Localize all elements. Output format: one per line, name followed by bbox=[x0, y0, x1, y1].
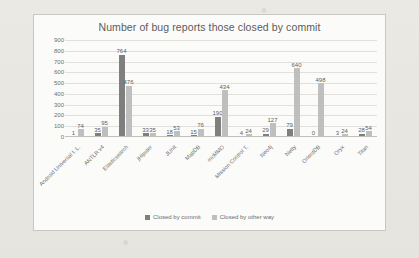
legend-entry[interactable]: Closed by other way bbox=[212, 214, 274, 220]
bar-value-label: 24 bbox=[245, 128, 252, 135]
bar-group: 424 bbox=[233, 40, 257, 137]
bar-value-label: 15 bbox=[190, 129, 197, 136]
x-axis-category-labels: Android Universal I. L.ANTLR v4Elasticse… bbox=[65, 139, 377, 197]
chart-legend: Closed by commitClosed by other way bbox=[34, 214, 385, 220]
bar-group: 0498 bbox=[305, 40, 329, 137]
bar-group: 190434 bbox=[209, 40, 233, 137]
bar-group: 324 bbox=[329, 40, 353, 137]
x-label-cell: Titan bbox=[353, 139, 377, 197]
bar[interactable]: 434 bbox=[222, 90, 228, 137]
bar-value-label: 54 bbox=[365, 125, 372, 132]
x-label-cell: Elasticsearch bbox=[113, 139, 137, 197]
y-axis-tick-100: 100 bbox=[54, 123, 64, 129]
y-axis-tick-700: 700 bbox=[54, 59, 64, 65]
bar-group: 2854 bbox=[353, 40, 377, 137]
bar[interactable]: 190 bbox=[215, 117, 221, 137]
y-axis-tick-600: 600 bbox=[54, 69, 64, 75]
legend-swatch-icon bbox=[145, 215, 150, 220]
bar[interactable]: 498 bbox=[318, 83, 324, 137]
bar-group: 1853 bbox=[161, 40, 185, 137]
bar[interactable]: 764 bbox=[119, 55, 125, 137]
x-label-cell: MapDB bbox=[185, 139, 209, 197]
x-label-cell: jHipster bbox=[137, 139, 161, 197]
bar-group: 79640 bbox=[281, 40, 305, 137]
bar-group: 1576 bbox=[185, 40, 209, 137]
bar-group: 764476 bbox=[113, 40, 137, 137]
bar[interactable]: 640 bbox=[294, 68, 300, 137]
y-axis-tick-400: 400 bbox=[54, 91, 64, 97]
bar-value-label: 434 bbox=[219, 84, 229, 91]
y-axis-tick-900: 900 bbox=[54, 37, 64, 43]
bar-group: 174 bbox=[65, 40, 89, 137]
y-axis-tick-300: 300 bbox=[54, 102, 64, 108]
bar[interactable]: 476 bbox=[126, 86, 132, 137]
x-label-cell: JUnit bbox=[161, 139, 185, 197]
bar-value-label: 640 bbox=[291, 62, 301, 69]
chart-title: Number of bug reports those closed by co… bbox=[34, 21, 385, 33]
y-axis-tick-500: 500 bbox=[54, 80, 64, 86]
bar-value-label: 28 bbox=[358, 127, 365, 134]
bar-value-label: 764 bbox=[116, 48, 126, 55]
x-label-cell: ANTLR v4 bbox=[89, 139, 113, 197]
x-label-cell: Neo4j bbox=[257, 139, 281, 197]
bar-value-label: 24 bbox=[341, 128, 348, 135]
y-axis-tick-labels: 9008007006005004003002001000 bbox=[38, 40, 64, 137]
legend-entry[interactable]: Closed by commit bbox=[145, 214, 201, 220]
bar-value-label: 53 bbox=[173, 125, 180, 132]
x-axis-label: Oryx bbox=[341, 135, 354, 148]
bar-value-label: 76 bbox=[197, 122, 204, 129]
bar-value-label: 498 bbox=[315, 77, 325, 84]
legend-label: Closed by commit bbox=[153, 214, 201, 220]
y-axis-tick-800: 800 bbox=[54, 48, 64, 54]
bar-value-label: 35 bbox=[149, 127, 156, 134]
bar-value-label: 74 bbox=[77, 123, 84, 130]
x-label-cell: Android Universal I. L. bbox=[65, 139, 89, 197]
x-label-cell: Mission Control T. bbox=[233, 139, 257, 197]
x-label-cell: Netty bbox=[281, 139, 305, 197]
x-label-cell: Oryx bbox=[329, 139, 353, 197]
bars-layer: 1743595764476333518531576190434424291277… bbox=[65, 40, 377, 137]
chart-container: Number of bug reports those closed by co… bbox=[33, 14, 386, 231]
x-label-cell: OrientDB bbox=[305, 139, 329, 197]
y-axis-tick-200: 200 bbox=[54, 112, 64, 118]
bar-value-label: 79 bbox=[286, 122, 293, 129]
y-axis-tick-0: 0 bbox=[61, 134, 64, 140]
x-axis-label: Titan bbox=[365, 135, 378, 148]
legend-label: Closed by other way bbox=[220, 214, 274, 220]
legend-swatch-icon bbox=[212, 215, 217, 220]
bar-value-label: 18 bbox=[166, 129, 173, 136]
bar-value-label: 476 bbox=[123, 79, 133, 86]
plot-area: 1743595764476333518531576190434424291277… bbox=[65, 40, 377, 137]
